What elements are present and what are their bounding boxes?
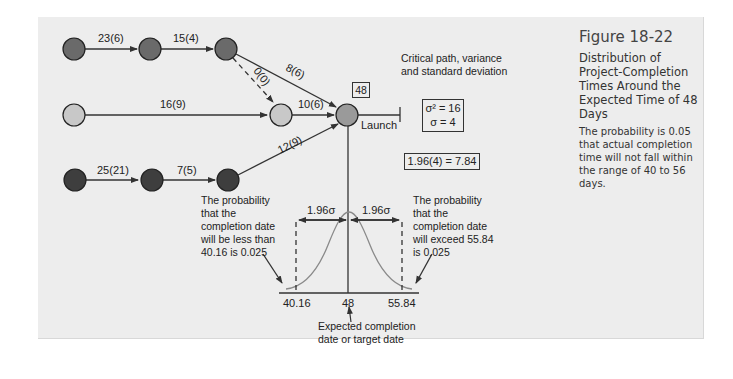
tick-label-high: 55.84 [388,297,416,309]
node-a2 [139,38,161,60]
calc-box: 1.96(4) = 7.84 [404,153,480,170]
edge-label-b1-b2: 16(9) [160,98,186,110]
tick-label-low: 40.16 [283,297,311,309]
edge-label-a3-end: 8(6) [284,61,307,81]
end-value-box: 48 [352,82,370,98]
figure-subtitle: Distribution of Project-Completion Times… [579,51,704,121]
launch-label: Launch [361,119,397,131]
edge-label-a2-a3: 15(4) [173,32,199,44]
variance-box: σ² = 16 σ = 4 [422,99,464,132]
expected-date-note: Expected completion date or target date [318,320,418,346]
edge-label-b2-end: 10(6) [298,98,324,110]
node-c3 [217,169,239,191]
std-dev-value: σ = 4 [423,115,463,129]
edge-label-a1-a2: 23(6) [98,32,124,44]
critical-path-note: Critical path, variance and standard dev… [401,52,511,78]
figure-description: The probability is 0.05 that actual comp… [579,125,704,190]
variance-value: σ² = 16 [423,101,463,115]
figure-caption: Figure 18-22 Distribution of Project-Com… [579,28,704,190]
node-c1 [64,169,86,191]
node-end [336,104,358,126]
node-c2 [141,169,163,191]
right-tail-note: The probability that the completion date… [413,194,498,259]
node-a3 [215,38,237,60]
edge-label-c3-end: 12(9) [275,133,303,155]
edge-label-c2-c3: 7(5) [177,164,197,176]
node-b1 [63,104,85,126]
right-interval-label: 1.96σ [362,204,390,216]
figure-title: Figure 18-22 [579,28,704,47]
edge-label-c1-c2: 25(21) [97,164,129,176]
normal-curve [286,212,412,289]
left-interval-label: 1.96σ [307,204,335,216]
node-a1 [63,38,85,60]
left-tail-note: The probability that the completion date… [201,194,289,259]
tick-label-mid: 48 [342,297,354,309]
edge-label-dummy: 0(0) [251,65,273,88]
node-b2 [270,104,292,126]
